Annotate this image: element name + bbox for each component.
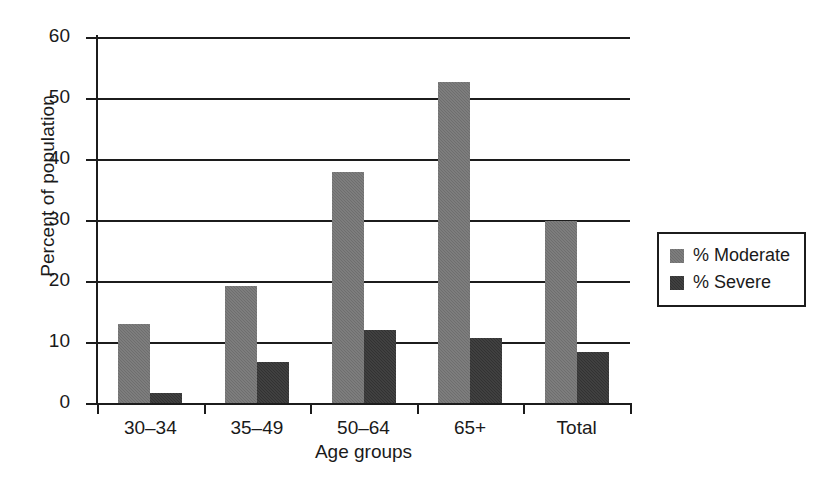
bar-severe <box>257 362 289 403</box>
bar-severe <box>364 330 396 403</box>
x-axis-category-label: 35–49 <box>197 417 317 439</box>
y-axis-tick-label: 0 <box>59 391 70 413</box>
y-axis-tick: 40 <box>86 159 97 161</box>
x-axis-title: Age groups <box>97 441 630 463</box>
y-axis-tick: 20 <box>86 281 97 283</box>
bar-moderate <box>545 221 577 403</box>
bar-severe <box>577 352 609 403</box>
y-axis-tick-label: 30 <box>49 208 70 230</box>
bar-group <box>332 37 396 403</box>
y-axis-tick: 30 <box>86 220 97 222</box>
legend-swatch-severe <box>670 276 684 290</box>
y-axis-tick: 60 <box>86 37 97 39</box>
bar-chart-figure: Percent of population 0102030405060 30–3… <box>0 0 836 485</box>
y-axis-tick-label: 10 <box>49 330 70 352</box>
legend-item: % Moderate <box>659 242 804 269</box>
y-axis-tick-label: 40 <box>49 147 70 169</box>
legend-swatch-moderate <box>670 249 684 263</box>
x-axis-tick <box>630 403 632 414</box>
x-axis-tick <box>310 403 312 414</box>
x-axis-category-label: 50–64 <box>304 417 424 439</box>
legend: % Moderate% Severe <box>657 232 806 307</box>
legend-label: % Moderate <box>693 245 790 266</box>
bar-group <box>545 37 609 403</box>
legend-item: % Severe <box>659 269 804 296</box>
legend-label: % Severe <box>693 272 771 293</box>
x-axis-category-label: 30–34 <box>90 417 210 439</box>
bar-moderate <box>225 286 257 403</box>
bar-group <box>225 37 289 403</box>
x-axis-tick <box>417 403 419 414</box>
x-axis-category-label: Total <box>517 417 637 439</box>
bar-severe <box>150 393 182 403</box>
x-axis-tick <box>97 403 99 414</box>
bar-severe <box>470 338 502 403</box>
x-axis-line <box>96 403 630 405</box>
y-axis-tick-label: 60 <box>49 25 70 47</box>
bar-group <box>438 37 502 403</box>
y-axis-tick-label: 50 <box>49 86 70 108</box>
y-axis-tick-label: 20 <box>49 269 70 291</box>
plot-area: 0102030405060 30–3435–4950–6465+Total <box>97 37 630 403</box>
bar-moderate <box>438 82 470 403</box>
x-axis-tick <box>523 403 525 414</box>
y-axis-tick: 10 <box>86 342 97 344</box>
bar-moderate <box>332 172 364 403</box>
bar-moderate <box>118 324 150 403</box>
y-axis-tick: 50 <box>86 98 97 100</box>
x-axis-category-label: 65+ <box>410 417 530 439</box>
y-axis-tick: 0 <box>86 403 97 405</box>
y-axis-title: Percent of population <box>37 76 59 296</box>
bar-group <box>118 37 182 403</box>
x-axis-tick <box>204 403 206 414</box>
